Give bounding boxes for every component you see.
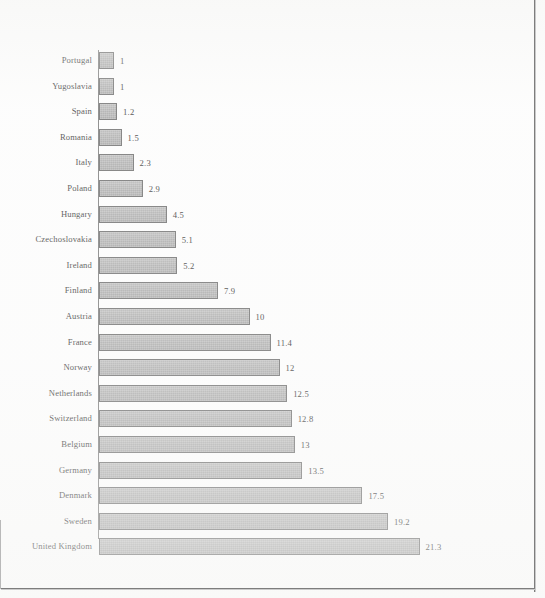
category-label: Romania (0, 129, 92, 146)
category-label: Spain (0, 103, 92, 120)
bar (99, 231, 176, 248)
bar-value-label: 13.5 (308, 462, 324, 479)
category-label: Belgium (0, 436, 92, 453)
bar (99, 103, 117, 120)
category-label: Denmark (0, 487, 92, 504)
category-label: Yugoslavia (0, 78, 92, 95)
category-label: Portugal (0, 52, 92, 69)
bar-value-label: 5.1 (182, 231, 193, 248)
bar-value-label: 19.2 (394, 513, 410, 530)
category-label: United Kingdom (0, 538, 92, 555)
bar-value-label: 1 (120, 52, 125, 69)
bar-value-label: 12 (286, 359, 295, 376)
bar-value-label: 2.3 (140, 154, 151, 171)
bar (99, 52, 114, 69)
category-label: Austria (0, 308, 92, 325)
bar-value-label: 1.2 (123, 103, 134, 120)
bar-value-label: 12.8 (298, 410, 314, 427)
bar-value-label: 17.5 (368, 487, 384, 504)
bar (99, 410, 292, 427)
bar-value-label: 5.2 (183, 257, 194, 274)
bar (99, 385, 287, 402)
bar (99, 154, 134, 171)
category-label: Sweden (0, 513, 92, 530)
bar-value-label: 12.5 (293, 385, 309, 402)
category-label: Germany (0, 462, 92, 479)
category-label: Finland (0, 282, 92, 299)
bar (99, 462, 302, 479)
bar (99, 334, 271, 351)
bar-value-label: 7.9 (224, 282, 235, 299)
bar-value-label: 1 (120, 78, 125, 95)
page-frame-left-rule (0, 520, 1, 589)
category-label: Switzerland (0, 410, 92, 427)
category-label: Hungary (0, 206, 92, 223)
bar-value-label: 2.9 (149, 180, 160, 197)
category-label: Czechoslovakia (0, 231, 92, 248)
category-label: Ireland (0, 257, 92, 274)
bar (99, 206, 167, 223)
bar (99, 282, 218, 299)
category-label: Netherlands (0, 385, 92, 402)
category-label: France (0, 334, 92, 351)
bar (99, 129, 122, 146)
chart-page: Portugal1Yugoslavia1Spain1.2Romania1.5It… (0, 0, 545, 598)
bar (99, 359, 280, 376)
bar (99, 538, 420, 555)
bar-value-label: 13 (301, 436, 310, 453)
bar (99, 436, 295, 453)
bar-value-label: 11.4 (277, 334, 293, 351)
category-label: Italy (0, 154, 92, 171)
bar (99, 78, 114, 95)
category-label: Norway (0, 359, 92, 376)
bar-value-label: 1.5 (128, 129, 139, 146)
category-label: Poland (0, 180, 92, 197)
bar (99, 180, 143, 197)
bar (99, 257, 177, 274)
page-frame-bottom-rule-shadow (1, 589, 535, 590)
bar-value-label: 21.3 (426, 538, 442, 555)
bar-chart: Portugal1Yugoslavia1Spain1.2Romania1.5It… (0, 0, 545, 598)
bar (99, 487, 362, 504)
bar (99, 308, 250, 325)
page-frame-right-rule-shadow (535, 0, 536, 592)
bar (99, 513, 388, 530)
bar-value-label: 4.5 (173, 206, 184, 223)
bar-value-label: 10 (256, 308, 265, 325)
